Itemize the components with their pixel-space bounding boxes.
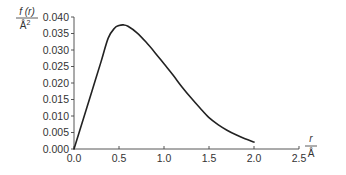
- x-tick-label: 0.5: [112, 152, 127, 164]
- y-axis-label: f (r) Å2: [16, 6, 38, 31]
- y-axis-label-numerator: f (r): [19, 6, 35, 17]
- x-axis-label: r Å: [305, 133, 317, 159]
- y-tick-label: 0.030: [43, 44, 69, 56]
- y-axis-ticks: 0.0000.0050.0100.0150.0200.0250.0300.035…: [43, 11, 74, 155]
- x-tick-label: 2.0: [247, 152, 262, 164]
- y-tick-label: 0.005: [43, 126, 69, 138]
- y-axis-label-denominator: Å2: [20, 19, 31, 31]
- y-tick-label: 0.010: [43, 110, 69, 122]
- x-axis-label-denominator: Å: [308, 147, 315, 159]
- x-tick-label: 2.5: [292, 152, 307, 164]
- x-tick-label: 1.5: [202, 152, 217, 164]
- y-tick-label: 0.000: [43, 143, 69, 155]
- y-tick-label: 0.015: [43, 93, 69, 105]
- x-axis-label-numerator: r: [309, 133, 313, 144]
- y-tick-label: 0.025: [43, 60, 69, 72]
- x-tick-label: 1.0: [157, 152, 172, 164]
- x-tick-label: 0.0: [67, 152, 82, 164]
- data-line: [74, 25, 254, 149]
- y-tick-label: 0.040: [43, 11, 69, 23]
- y-tick-label: 0.020: [43, 77, 69, 89]
- y-tick-label: 0.035: [43, 27, 69, 39]
- line-chart: f (r) Å2 r Å 0.0000.0050.0100.0150.0200.…: [0, 0, 346, 175]
